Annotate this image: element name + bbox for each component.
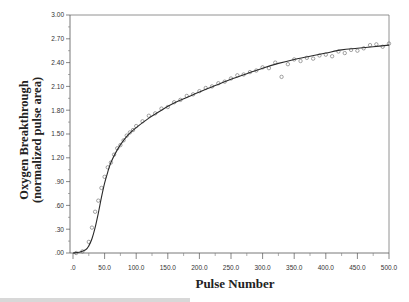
x-tick-label: 50.0: [98, 264, 111, 271]
y-tick-label: 2.70: [51, 35, 64, 42]
x-tick-label: 200.0: [191, 264, 208, 271]
cropped-caption-fragment: [0, 298, 190, 302]
data-point: [100, 186, 103, 189]
y-tick-label: .60: [55, 202, 64, 209]
x-tick-label: 150.0: [160, 264, 177, 271]
y-tick-label: .90: [55, 178, 64, 185]
y-axis-title-line2: (normalized pulse area): [30, 77, 44, 203]
y-tick-label: .00: [55, 249, 64, 256]
x-tick-label: 300.0: [254, 264, 271, 271]
x-tick-label: .0: [70, 264, 76, 271]
data-point: [93, 210, 96, 213]
x-tick-label: 100.0: [128, 264, 145, 271]
y-tick-label: 3.00: [51, 11, 64, 18]
y-tick-label: 1.20: [51, 154, 64, 161]
x-tick-label: 500.0: [381, 264, 398, 271]
y-tick-label: 1.50: [51, 130, 64, 137]
x-axis-ticks: .050.0100.0150.0200.0250.0300.0350.0400.…: [70, 253, 397, 271]
data-point: [368, 43, 371, 46]
plot-frame: [70, 15, 389, 253]
data-point: [375, 43, 378, 46]
x-tick-label: 450.0: [349, 264, 366, 271]
data-point: [280, 75, 283, 78]
data-points: [74, 42, 390, 255]
data-point: [343, 51, 346, 54]
x-tick-label: 250.0: [223, 264, 240, 271]
data-point: [97, 199, 100, 202]
y-axis-ticks: .00.30.60.901.201.501.802.102.402.703.00: [51, 11, 70, 256]
data-point: [330, 55, 333, 58]
y-tick-label: 2.10: [51, 83, 64, 90]
data-point: [311, 57, 314, 60]
y-tick-label: .30: [55, 226, 64, 233]
data-point: [286, 62, 289, 65]
data-point: [90, 226, 93, 229]
y-axis-title-line1: Oxygen Breakthrough: [17, 80, 31, 199]
data-point: [356, 49, 359, 52]
oxygen-breakthrough-chart: .00.30.60.901.201.501.802.102.402.703.00…: [0, 0, 409, 302]
x-tick-label: 350.0: [286, 264, 303, 271]
y-tick-label: 2.40: [51, 59, 64, 66]
data-point: [299, 59, 302, 62]
x-tick-label: 400.0: [318, 264, 335, 271]
x-axis-title: Pulse Number: [195, 276, 274, 291]
y-axis-title: Oxygen Breakthrough (normalized pulse ar…: [17, 77, 44, 203]
y-tick-label: 1.80: [51, 107, 64, 114]
fit-curve: [73, 45, 389, 253]
